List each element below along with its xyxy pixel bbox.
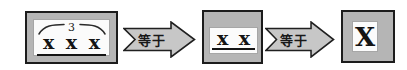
- term-x: x: [43, 35, 54, 50]
- step1-box: 3 x x x: [25, 11, 118, 64]
- step3-panel: X: [352, 21, 378, 52]
- term-x: x: [217, 31, 228, 46]
- step1-panel: 3 x x x: [33, 19, 110, 56]
- step2-terms: x x: [217, 31, 250, 46]
- term-x: x: [66, 35, 77, 50]
- equals-arrow-1: 等于: [123, 21, 196, 58]
- term-x: X: [355, 24, 375, 50]
- equals-arrow-2: 等于: [265, 21, 335, 58]
- diagram-canvas: 3 x x x 等于 x x 等于: [0, 0, 407, 70]
- term-x: x: [239, 31, 250, 46]
- equals-arrow-label: 等于: [132, 21, 172, 58]
- step1-terms: x x x: [43, 35, 100, 50]
- step1-underline: [37, 54, 106, 56]
- step2-panel: x x: [209, 27, 258, 54]
- term-x: x: [89, 35, 100, 50]
- step2-underline: [212, 48, 255, 50]
- step2-box: x x: [202, 10, 263, 64]
- equals-arrow-label: 等于: [274, 21, 314, 58]
- step3-box: X: [341, 10, 395, 63]
